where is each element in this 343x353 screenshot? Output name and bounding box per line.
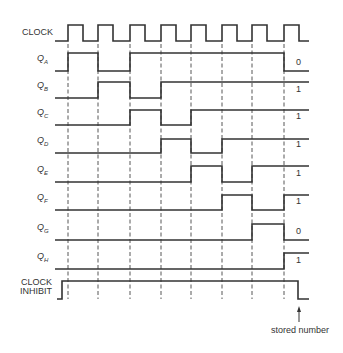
final-value-qb: 1 [296, 84, 301, 94]
waveform-qb [55, 82, 309, 98]
waveform-qh [55, 253, 309, 269]
clock-label: CLOCK [22, 27, 53, 37]
final-value-qg: 0 [296, 226, 301, 236]
stored-number-annotation: stored number [271, 325, 329, 335]
timing-diagram [0, 0, 343, 353]
final-value-qa: 0 [296, 57, 301, 67]
clock-inhibit-waveform [57, 281, 309, 299]
waveforms [55, 25, 309, 299]
waveform-qg [55, 224, 309, 240]
signal-label-qb: QB [37, 80, 48, 92]
final-value-qc: 1 [296, 111, 301, 121]
waveform-qd [55, 139, 309, 153]
signal-label-qd: QD [37, 135, 48, 147]
waveform-qe [55, 166, 309, 182]
final-value-qh: 1 [296, 255, 301, 265]
final-value-qe: 1 [296, 168, 301, 178]
stored-number-arrow-icon [297, 306, 301, 322]
signal-label-qg: QG [37, 222, 49, 234]
signal-label-qa: QA [37, 53, 48, 65]
clock-inhibit-label: CLOCK INHIBIT [18, 278, 52, 296]
signal-label-qe: QE [37, 164, 48, 176]
signal-label-qf: QF [37, 192, 48, 204]
clock-inhibit-line2: INHIBIT [18, 287, 52, 296]
signal-label-qc: QC [37, 107, 48, 119]
clock-waveform [55, 25, 309, 41]
waveform-qc [55, 110, 309, 125]
waveform-qf [55, 195, 309, 210]
final-value-qf: 1 [296, 196, 301, 206]
waveform-qa [55, 53, 309, 71]
final-value-qd: 1 [296, 139, 301, 149]
signal-label-qh: QH [37, 251, 48, 263]
